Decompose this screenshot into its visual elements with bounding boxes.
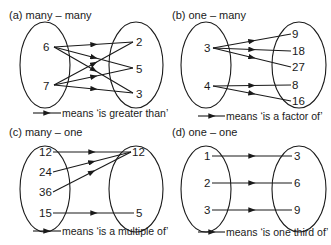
panel-c-many-one: (c) many – one 12 24 36 15 12 5 means ‘i…: [9, 126, 168, 237]
codomain-element: 9: [294, 204, 300, 216]
domain-element: 24: [39, 166, 52, 178]
codomain-element: 2: [136, 36, 142, 48]
mapping-arrow: [54, 42, 133, 85]
domain-element: 2: [204, 177, 210, 189]
codomain-element: 8: [292, 79, 298, 91]
mapping-arrow: [53, 152, 131, 192]
domain-element: 3: [204, 204, 210, 216]
codomain-element: 18: [292, 45, 305, 57]
domain-element: 7: [43, 80, 49, 92]
relations-diagram: (a) many – many 6 7 2 5 3 means ‘is grea…: [0, 0, 331, 245]
panel-b-one-many: (b) one – many 3 4 9 18 27 8 16 means ‘i…: [172, 9, 326, 122]
codomain-element: 16: [292, 95, 305, 107]
panel-b-title: (b) one – many: [172, 9, 246, 21]
codomain-element: 3: [294, 150, 300, 162]
panel-d-legend: means ‘is one third of’: [226, 226, 328, 238]
mapping-arrow: [54, 47, 133, 68]
panel-a-title: (a) many – many: [9, 9, 92, 21]
panel-a-many-many: (a) many – many 6 7 2 5 3 means ‘is grea…: [9, 9, 168, 119]
domain-element: 6: [43, 41, 49, 53]
domain-element: 3: [204, 42, 210, 54]
mapping-arrow: [54, 68, 133, 85]
panel-d-title: (d) one – one: [172, 126, 237, 138]
panel-d-one-one: (d) one – one 1 2 3 3 6 9 means ‘is one …: [172, 126, 328, 238]
codomain-element: 6: [294, 177, 300, 189]
domain-set-b: [181, 22, 231, 108]
codomain-element: 12: [132, 146, 145, 158]
codomain-element: 27: [292, 61, 305, 73]
domain-element: 12: [39, 146, 52, 158]
panel-c-legend: means ‘is a multiple of’: [62, 225, 168, 237]
panel-c-title: (c) many – one: [9, 126, 82, 138]
codomain-element: 9: [292, 28, 298, 40]
mapping-arrow: [213, 85, 291, 86]
domain-element: 4: [204, 80, 211, 92]
domain-element: 36: [39, 186, 52, 198]
domain-element: 1: [204, 150, 210, 162]
codomain-element: 5: [136, 63, 142, 75]
panel-b-legend: means ‘is a factor of’: [226, 110, 322, 122]
mapping-arrow: [54, 42, 133, 47]
domain-set-a: [20, 22, 70, 108]
panel-a-legend: means ‘is greater than’: [62, 107, 168, 119]
codomain-element: 5: [136, 207, 142, 219]
codomain-element: 3: [136, 88, 142, 100]
domain-element: 15: [39, 207, 52, 219]
